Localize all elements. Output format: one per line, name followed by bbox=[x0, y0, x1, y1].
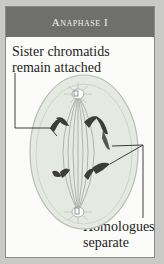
cell-membrane bbox=[30, 75, 138, 229]
cell-illustration bbox=[0, 0, 164, 264]
